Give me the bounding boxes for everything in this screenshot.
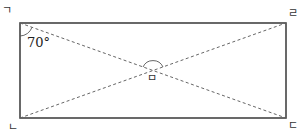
- vertex-label-bottom-left: ㄴ: [8, 121, 18, 133]
- angle-label: 70°: [27, 35, 50, 50]
- intersection-label: ㅁ: [147, 72, 157, 85]
- vertex-label-top-left: ㄱ: [2, 4, 12, 17]
- vertex-label-bottom-right: ㄷ: [288, 119, 298, 132]
- angle-arc-intersection: [143, 61, 163, 67]
- diagram-canvas: ㄱ ㄹ ㄴ ㄷ ㅁ 70°: [0, 0, 307, 133]
- vertex-label-top-right: ㄹ: [288, 7, 298, 20]
